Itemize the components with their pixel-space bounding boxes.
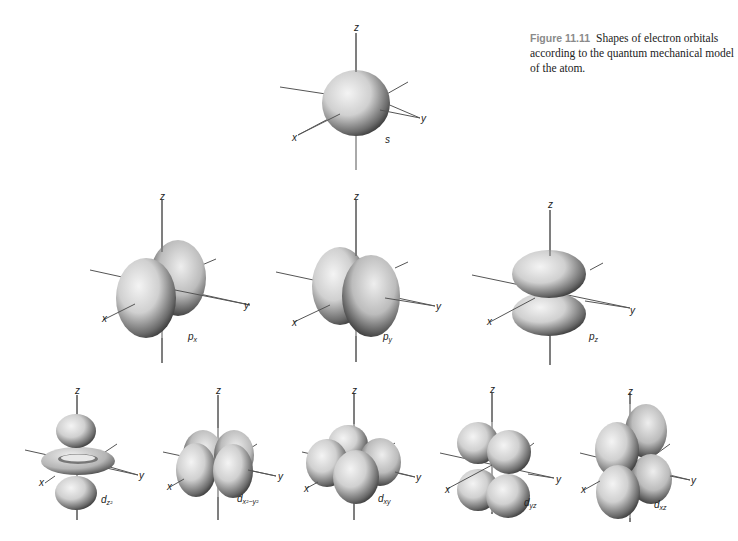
x-axis-label: x — [303, 483, 310, 494]
y-axis-label: y — [243, 300, 250, 311]
orbital-px: z y x px — [90, 191, 250, 363]
y-axis-label: y — [435, 301, 442, 312]
x-axis-label: x — [486, 316, 493, 327]
orbital-dxy: z y x dxy — [302, 385, 422, 520]
orbital-label-py: py — [382, 331, 393, 344]
y-axis-label: y — [690, 475, 697, 486]
y-axis-label: y — [555, 474, 562, 485]
y-axis-label: y — [629, 305, 636, 316]
x-axis-label: x — [291, 132, 298, 143]
z-axis-label: z — [547, 199, 553, 210]
y-axis-label: y — [138, 470, 145, 481]
x-axis-label: x — [291, 317, 298, 328]
z-axis-label: z — [74, 385, 80, 396]
orbital-figure: z y x s z y x px z y x py — [0, 0, 738, 541]
z-axis-label: z — [351, 385, 357, 396]
orbital-dx2-y2: z y x dx²−y² — [163, 385, 284, 520]
orbital-pz: z y x pz — [472, 199, 636, 365]
y-axis-label: y — [415, 472, 422, 483]
y-axis-label: y — [277, 471, 284, 482]
orbital-label-dxy: dxy — [378, 493, 391, 506]
orbital-dz2: z y x dz² — [25, 385, 145, 520]
orbital-label-pz: pz — [588, 331, 599, 343]
x-axis-label: x — [580, 484, 587, 495]
y-axis-label: y — [420, 113, 427, 124]
z-axis-label: z — [489, 384, 495, 395]
orbital-dyz: z y x dyz — [440, 384, 562, 518]
orbital-s: z y x s — [280, 22, 427, 170]
z-axis-label: z — [627, 386, 633, 397]
z-axis-label: z — [159, 191, 165, 202]
z-axis-label: z — [215, 385, 221, 396]
x-axis-label: x — [444, 484, 451, 495]
orbital-label-dz2: dz² — [101, 494, 113, 506]
orbital-dxz: z y x dxz — [580, 386, 697, 522]
z-axis-label: z — [353, 191, 359, 202]
x-axis-label: x — [166, 481, 173, 492]
z-axis-label: z — [353, 22, 359, 33]
x-axis-label: x — [101, 313, 108, 324]
orbital-label-dx2-y2: dx²−y² — [237, 493, 259, 506]
orbital-label-s: s — [385, 134, 390, 145]
x-axis-label: x — [38, 477, 45, 488]
orbital-label-px: px — [187, 331, 198, 343]
orbital-py: z y x py — [276, 191, 442, 362]
